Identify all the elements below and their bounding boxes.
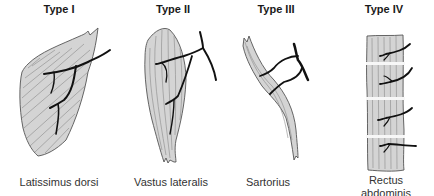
muscle-latissimus-dorsi xyxy=(20,28,110,156)
muscle-rectus-abdominis xyxy=(366,35,416,171)
muscle-diagram xyxy=(0,0,434,196)
caption-line-2: abdominis xyxy=(331,187,434,196)
panel-caption-type-4: Rectus abdominis xyxy=(331,174,434,196)
muscle-vastus-lateralis xyxy=(145,28,216,163)
panel-caption-type-2: Vastus lateralis xyxy=(116,176,226,189)
muscle-shape xyxy=(20,28,98,156)
caption-line-1: Rectus xyxy=(331,174,434,187)
panel-caption-type-3: Sartorius xyxy=(213,176,323,189)
muscle-shape xyxy=(243,36,298,160)
muscle-sartorius xyxy=(243,36,308,160)
panel-caption-type-1: Latissimus dorsi xyxy=(4,176,114,189)
